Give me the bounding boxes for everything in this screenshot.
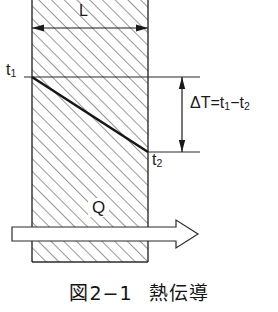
label-t1: t1	[6, 62, 16, 78]
delta-t-dimension	[179, 77, 185, 152]
label-t2: t2	[152, 152, 162, 168]
diagram-canvas	[0, 0, 278, 312]
caption-title: 熱伝導	[149, 282, 209, 304]
heat-conduction-figure: t1 t2 L ΔT=t1−t2 Q 図2−1熱伝導	[0, 0, 278, 312]
figure-caption: 図2−1熱伝導	[0, 278, 278, 305]
caption-number: 図2−1	[69, 282, 132, 304]
label-delta-t-equation: ΔT=t1−t2	[190, 95, 250, 111]
label-heat-flow-q: Q	[88, 198, 109, 217]
label-thickness-L: L	[79, 3, 88, 19]
wall-section	[32, 0, 148, 262]
delta-t-arrow-down	[179, 140, 185, 152]
wall-hatching	[32, 0, 148, 262]
delta-t-arrow-up	[179, 77, 185, 89]
